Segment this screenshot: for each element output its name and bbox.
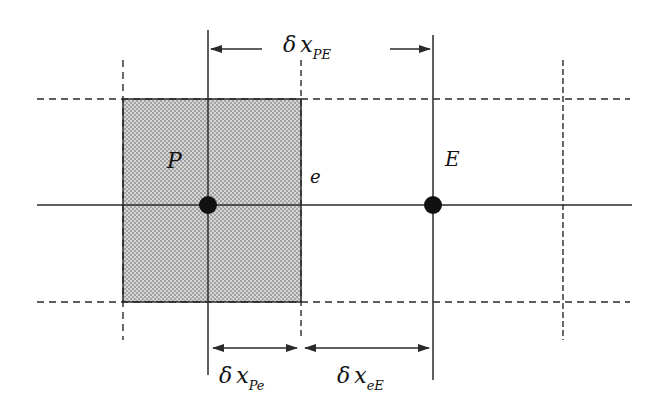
node-p-label: P <box>166 148 183 173</box>
finite-volume-diagram: P E e δxPE δxPe δxeE <box>0 0 665 415</box>
node-p-dot <box>199 196 217 214</box>
dimension-pe: δxPE <box>211 32 430 62</box>
dimension-ee: δxeE <box>305 348 429 393</box>
dimension-ee-label: δxeE <box>337 363 384 393</box>
dimension-pe-label: δxPE <box>283 32 331 62</box>
dimension-pe-face-label: δxPe <box>219 363 265 393</box>
node-e-dot <box>424 196 442 214</box>
grid-solid-lines <box>37 30 632 380</box>
dimension-pe-face: δxPe <box>213 348 297 393</box>
node-e-label: E <box>444 147 460 171</box>
face-e-label: e <box>310 166 321 187</box>
